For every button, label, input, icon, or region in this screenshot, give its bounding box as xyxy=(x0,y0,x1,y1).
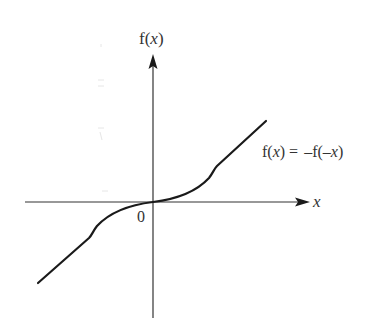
origin-label: 0 xyxy=(137,208,145,225)
y-axis xyxy=(149,54,158,318)
equation-label: f(x) =–f(–x) xyxy=(262,143,343,161)
y-axis-label: f(x) xyxy=(139,29,164,48)
x-axis-label: x xyxy=(312,192,321,211)
odd-function-diagram: f(x) x 0 f(x) =–f(–x) xyxy=(0,0,378,334)
scan-artifacts xyxy=(98,44,108,191)
